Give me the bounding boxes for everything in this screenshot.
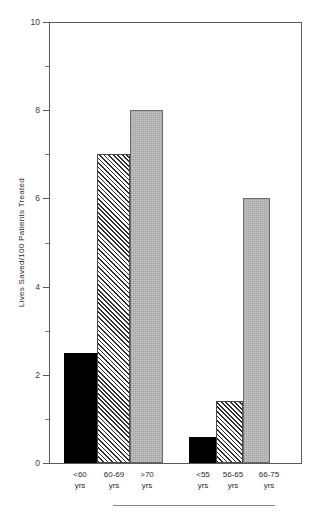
- y-tick-4: [43, 287, 49, 288]
- bar-g2-lt55: [189, 437, 216, 463]
- y-tick-label-4: 4: [16, 283, 40, 292]
- y-tick-label-6: 6: [16, 194, 40, 203]
- cat-label-line2: yrs: [250, 481, 288, 492]
- x-axis-line: [49, 463, 302, 464]
- group-bracket-rule: [113, 505, 275, 506]
- y-tick-0: [43, 463, 49, 464]
- bar-g2-66-75: [243, 198, 270, 463]
- y-axis-line: [49, 22, 50, 463]
- y-tick-label-0: 0: [16, 459, 40, 468]
- y-minor-tick-5: [45, 243, 49, 244]
- cat-label-g2-56-65: 56-65 yrs: [214, 470, 252, 491]
- y-tick-8: [43, 110, 49, 111]
- y-minor-tick-3: [45, 331, 49, 332]
- cat-label-line2: yrs: [127, 481, 167, 492]
- bar-chart: Lives Saved/100 Patients Treated 10 8 6 …: [0, 0, 312, 517]
- y-tick-label-10: 10: [16, 18, 40, 27]
- bar-g2-56-65: [216, 401, 243, 463]
- y-tick-2: [43, 375, 49, 376]
- y-tick-label-8: 8: [16, 106, 40, 115]
- bar-g1-lt60: [64, 353, 97, 463]
- cat-label-line1: 66-75: [250, 470, 288, 481]
- y-minor-tick-7: [45, 154, 49, 155]
- cat-label-g1-gt70: >70 yrs: [127, 470, 167, 491]
- cat-label-line2: yrs: [214, 481, 252, 492]
- y-minor-tick-1: [45, 419, 49, 420]
- y-tick-6: [43, 198, 49, 199]
- y-axis-title: Lives Saved/100 Patients Treated: [17, 148, 26, 338]
- y-tick-label-2: 2: [16, 371, 40, 380]
- plot-right-rule: [301, 22, 302, 463]
- bar-g1-gt70: [130, 110, 163, 463]
- plot-top-rule: [49, 22, 302, 23]
- y-tick-10: [43, 22, 49, 23]
- y-minor-tick-9: [45, 66, 49, 67]
- bar-g1-60-69: [97, 154, 130, 463]
- cat-label-line1: 56-65: [214, 470, 252, 481]
- cat-label-line1: >70: [127, 470, 167, 481]
- cat-label-g2-66-75: 66-75 yrs: [250, 470, 288, 491]
